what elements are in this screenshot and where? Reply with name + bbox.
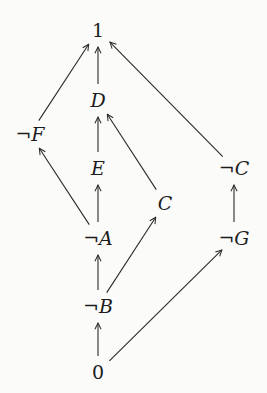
node-notB: ¬B bbox=[83, 295, 113, 317]
nodes-group: 1D¬FE¬CC¬A¬G¬B0 bbox=[15, 19, 249, 383]
edge-notA-to-notF bbox=[39, 148, 89, 224]
edges-group bbox=[39, 42, 234, 361]
edge-bottom-to-notG bbox=[109, 250, 221, 361]
node-notF: ¬F bbox=[15, 123, 45, 145]
node-notG: ¬G bbox=[218, 227, 249, 249]
node-notA: ¬A bbox=[83, 227, 113, 249]
node-notC: ¬C bbox=[219, 157, 250, 179]
hasse-diagram: 1D¬FE¬CC¬A¬G¬B0 bbox=[0, 0, 267, 393]
edge-notC-to-top bbox=[110, 42, 223, 156]
node-D: D bbox=[89, 89, 105, 111]
edge-notF-to-top bbox=[39, 44, 89, 120]
node-E: E bbox=[90, 157, 105, 179]
node-C: C bbox=[158, 192, 173, 214]
edge-notB-to-C bbox=[107, 217, 156, 292]
node-top: 1 bbox=[92, 19, 104, 41]
edge-C-to-D bbox=[107, 114, 156, 189]
node-bottom: 0 bbox=[92, 361, 104, 383]
